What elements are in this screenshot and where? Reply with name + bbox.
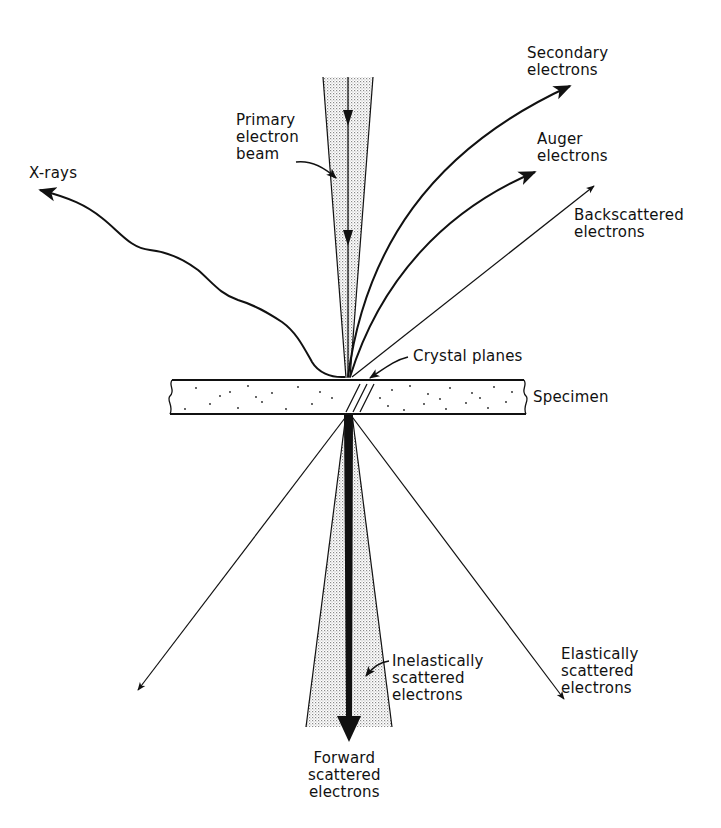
forward-scattered-cone — [306, 414, 392, 742]
label-xrays: X-rays — [29, 165, 77, 182]
label-inelastic: Inelastically scattered electrons — [392, 653, 484, 704]
diagram-canvas — [0, 0, 721, 828]
label-specimen: Specimen — [533, 389, 609, 406]
label-primary-beam: Primary electron beam — [236, 112, 299, 163]
xray-path — [40, 190, 345, 377]
label-auger-electrons: Auger electrons — [537, 131, 608, 165]
label-secondary-electrons: Secondary electrons — [527, 45, 608, 79]
label-crystal-planes: Crystal planes — [413, 348, 523, 365]
primary-beam — [323, 77, 373, 378]
crystal-planes-pointer — [370, 357, 408, 378]
label-elastic: Elastically scattered electrons — [561, 646, 639, 697]
label-forward-scattered: Forward scattered electrons — [308, 750, 381, 801]
label-backscattered-electrons: Backscattered electrons — [574, 207, 684, 241]
specimen — [168, 380, 528, 414]
forward-arrow-icon — [337, 716, 361, 742]
